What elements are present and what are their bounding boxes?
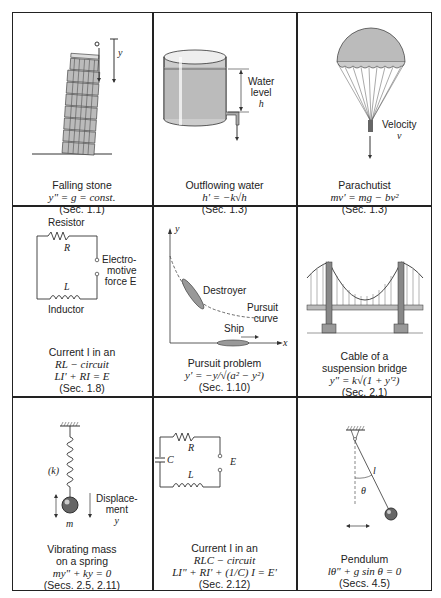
cell-rlc-circuit: R C E L Current I in an RLC − circuit LI… [153, 397, 296, 591]
disp-line2: ment [96, 504, 138, 515]
caption-title: Outflowing water [153, 179, 296, 191]
r-label: R [64, 242, 70, 253]
ship-label: Ship [224, 323, 244, 334]
caption-title-2: RLC − circuit [153, 554, 296, 566]
caption-title: Falling stone [12, 179, 152, 191]
emf-line1: Electro- [102, 254, 136, 265]
e-label: E [230, 456, 236, 467]
destroyer-label: Destroyer [203, 285, 246, 296]
x-axis-label: x [283, 337, 287, 348]
water-level-label: Water level h [248, 76, 274, 109]
caption: Cable of a suspension bridge y" = k√(1 +… [297, 350, 432, 398]
disp-line1: Displace- [96, 493, 138, 504]
leaning-tower-icon [12, 12, 152, 205]
caption: Pursuit problem y' = −y/√(a² − y²) (Sec.… [153, 357, 296, 393]
caption: Current I in an RLC − circuit LI" + RI' … [153, 542, 296, 590]
emf-line3: force E [102, 276, 136, 287]
velocity-label: Velocity v [382, 119, 416, 141]
caption: Current I in an RL − circuit LI' + RI = … [12, 346, 152, 394]
y-label: y [118, 47, 122, 58]
caption-equation: my" + ky = 0 [12, 567, 152, 579]
cell-outflowing-water: Water level h Outflowing water h' = −k√h… [153, 12, 296, 205]
caption-title-1: Cable of a [297, 350, 432, 362]
caption-equation: y" = k√(1 + y'²) [297, 374, 432, 386]
caption-section: (Sec. 1.8) [12, 382, 152, 394]
c-label: C [167, 454, 174, 465]
caption-equation: lθ" + g sin θ = 0 [297, 565, 432, 577]
caption-equation: LI' + RI = E [12, 370, 152, 382]
cell-pursuit-problem: y x Destroyer Pursuit curve Ship Pursuit… [153, 206, 296, 396]
resistor-label: Resistor [48, 217, 85, 228]
caption-title: Pendulum [297, 553, 432, 565]
l-label: L [64, 281, 70, 292]
caption-title-2: RL − circuit [12, 358, 152, 370]
water-tank-icon [153, 12, 296, 205]
pursuit-text: Pursuit [247, 302, 278, 313]
m-label: m [66, 518, 73, 529]
pursuit-curve-label: Pursuit curve [247, 302, 278, 324]
v-text: v [382, 130, 416, 141]
caption-title-2: on a spring [12, 555, 152, 567]
caption-title-1: Current I in an [153, 542, 296, 554]
cell-falling-stone: y Falling stone y" = g = const. (Sec. 1.… [12, 12, 152, 205]
cell-pendulum: l θ Pendulum lθ" + g sin θ = 0 (Secs. 4.… [297, 397, 432, 591]
caption: Pendulum lθ" + g sin θ = 0 (Secs. 4.5) [297, 553, 432, 589]
water-text: Water [248, 76, 274, 87]
emf-label: Electro- motive force E [102, 254, 136, 287]
caption-equation: y" = g = const. [12, 191, 152, 203]
l-label: l [373, 465, 376, 476]
level-text: level [248, 87, 274, 98]
caption-equation: LI" + RI' + (1/C) I = E' [153, 566, 296, 578]
parachute-icon [297, 12, 432, 205]
caption-title-1: Current I in an [12, 346, 152, 358]
disp-y: y [96, 515, 138, 526]
h-text: h [248, 98, 274, 109]
cell-rl-circuit: Resistor R Electro- motive force E L Ind… [12, 206, 152, 396]
caption: Vibrating mass on a spring my" + ky = 0 … [12, 543, 152, 591]
caption-section: (Secs. 4.5) [297, 577, 432, 589]
caption-title-1: Vibrating mass [12, 543, 152, 555]
y-axis-label: y [175, 223, 179, 234]
cell-suspension-bridge: Cable of a suspension bridge y" = k√(1 +… [297, 206, 432, 396]
caption-section: (Sec. 1.10) [153, 381, 296, 393]
caption-title: Pursuit problem [153, 357, 296, 369]
k-label: (k) [48, 465, 59, 476]
r-label: R [188, 442, 194, 453]
theta-label: θ [361, 485, 366, 496]
caption-equation: h' = −k√h [153, 191, 296, 203]
caption-equation: mv' = mg − bv² [297, 191, 432, 203]
velocity-text: Velocity [382, 119, 416, 130]
caption-section: (Secs. 2.5, 2.11) [12, 579, 152, 591]
caption-title: Parachutist [297, 179, 432, 191]
caption-section: (Sec. 2.12) [153, 578, 296, 590]
displacement-label: Displace- ment y [96, 493, 138, 526]
l-label: L [188, 469, 194, 480]
inductor-label: Inductor [48, 304, 84, 315]
caption-equation: y' = −y/√(a² − y²) [153, 369, 296, 381]
caption-title-2: suspension bridge [297, 362, 432, 374]
cell-parachutist: Velocity v Parachutist mv' = mg − bv² (S… [297, 12, 432, 205]
emf-line2: motive [102, 265, 136, 276]
cell-mass-spring: (k) Displace- ment y m Vibrating mass on… [12, 397, 152, 591]
curve-text: curve [247, 313, 278, 324]
